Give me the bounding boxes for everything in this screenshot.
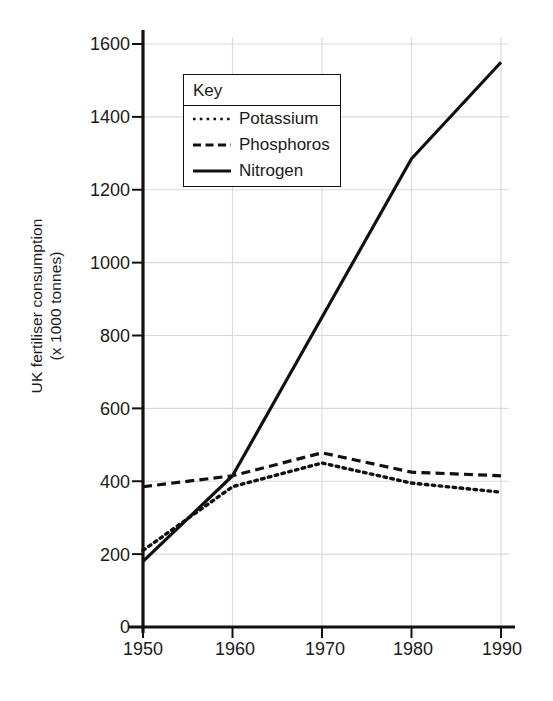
legend-title: Key xyxy=(184,75,340,106)
legend-item-nitrogen: Nitrogen xyxy=(184,158,340,184)
legend-label-nitrogen: Nitrogen xyxy=(239,162,303,180)
legend-item-phosphoros: Phosphoros xyxy=(184,132,340,158)
line-chart: UK fertiliser consumption (x 1000 tonnes… xyxy=(0,0,553,701)
legend-label-phosphoros: Phosphoros xyxy=(239,136,330,154)
legend: Key Potassium Phosphoros xyxy=(183,74,341,187)
legend-item-potassium: Potassium xyxy=(184,106,340,132)
legend-label-potassium: Potassium xyxy=(239,110,318,128)
dashed-line-icon xyxy=(192,139,232,151)
solid-line-icon xyxy=(192,165,232,177)
dotted-line-icon xyxy=(192,113,232,125)
